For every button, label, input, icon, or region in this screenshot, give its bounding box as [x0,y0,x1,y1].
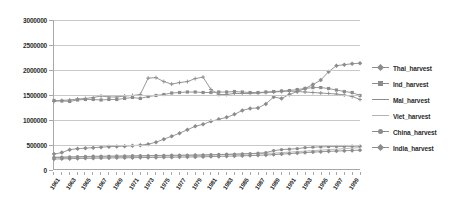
y-axis-tick [49,45,53,46]
data-point-marker [296,147,299,150]
x-axis-tick-label: 1967 [96,177,108,191]
x-axis-tick [77,172,78,175]
data-point-marker [327,87,330,90]
x-axis-tick [210,172,211,175]
data-point-marker [288,147,291,150]
x-axis-tick [250,172,251,175]
legend-swatch-icon [372,143,389,153]
series-line [54,77,360,101]
legend-label: India_harvest [393,145,434,152]
legend-item-india-harvest[interactable]: India_harvest [372,140,461,156]
legend-label: Viet_harvest [393,113,430,120]
x-axis-tick [69,172,70,175]
data-point-marker [75,146,80,150]
data-point-marker [351,91,354,94]
x-axis-tick [297,172,298,175]
y-axis-tick-label: 1000000 [23,117,47,124]
plot-area [53,20,360,170]
data-point-marker [335,88,338,91]
data-point-marker [319,86,322,89]
data-point-marker [177,131,182,135]
data-point-marker [91,145,96,149]
x-axis-tick [258,172,259,175]
x-axis-tick [336,172,337,175]
data-point-marker [280,148,283,151]
legend-label: Thai_harvest [393,65,432,72]
data-point-marker [256,106,261,110]
series-line [54,63,360,154]
y-axis-tick [49,170,53,171]
x-axis-tick [305,172,306,175]
data-point-marker [185,80,189,84]
y-axis: 0500000100000015000002000000250000030000… [0,20,49,170]
gridline [54,145,360,146]
data-point-marker [185,128,190,132]
data-point-marker [358,148,363,152]
data-point-marker [350,61,355,65]
data-point-marker [224,115,229,119]
y-axis-tick-label: 500000 [27,142,48,149]
x-axis-tick [273,172,274,175]
y-axis-tick-label: 3000000 [23,17,47,24]
x-axis-tick [203,172,204,175]
gridline [54,45,360,46]
data-point-marker [193,124,198,128]
x-axis-tick-label: 1981 [206,177,218,191]
data-point-marker [201,91,204,94]
x-axis-tick [53,172,54,175]
gridline [54,70,360,71]
x-axis-tick-label: 1977 [175,177,187,191]
x-axis-tick [116,172,117,175]
x-axis-tick-label: 1991 [285,177,297,191]
gridline [54,20,360,21]
x-axis-tick [234,172,235,175]
data-point-marker [343,90,346,93]
x-axis-tick [226,172,227,175]
x-axis-tick [132,172,133,175]
data-point-marker [186,90,189,93]
x-axis-tick-label: 1985 [238,177,250,191]
x-axis-tick [92,172,93,175]
data-point-marker [232,112,237,116]
x-axis-tick-label: 1999 [348,177,360,191]
x-axis-tick [108,172,109,175]
data-point-marker [194,90,197,93]
data-point-marker [60,150,65,154]
x-axis-tick [61,172,62,175]
x-axis-tick-label: 1989 [269,177,281,191]
x-axis-tick [155,172,156,175]
data-point-marker [279,96,284,100]
data-point-marker [358,97,362,101]
y-axis-tick-label: 1500000 [23,92,47,99]
legend-swatch-icon [372,111,389,121]
x-axis-tick [289,172,290,175]
y-axis-tick [49,120,53,121]
legend-item-china-harvest[interactable]: China_harvest [372,124,461,140]
gridline [54,120,360,121]
legend-swatch-icon [372,63,389,73]
data-point-marker [201,122,206,126]
legend-item-thai-harvest[interactable]: Thai_harvest [372,60,461,76]
x-axis-tick-label: 1997 [332,177,344,191]
data-point-marker [311,91,315,95]
legend-label: China_harvest [393,129,437,136]
x-axis-tick [100,172,101,175]
data-point-marker [139,97,142,100]
data-point-marker [303,146,306,149]
x-axis-tick [124,172,125,175]
x-axis-tick-label: 1975 [159,177,171,191]
x-axis-tick-label: 1961 [49,177,61,191]
data-point-marker [303,87,306,90]
data-point-marker [311,86,314,89]
x-axis-tick [360,172,361,175]
x-axis-tick-label: 1979 [190,177,202,191]
y-axis-tick [49,95,53,96]
data-point-marker [193,77,197,81]
legend-item-mal-harvest[interactable]: Mal_harvest [372,92,461,108]
x-axis-tick [147,172,148,175]
legend-item-ind-harvest[interactable]: Ind_harvest [372,76,461,92]
x-axis: 1961196319651967196919711973197519771979… [53,172,360,208]
legend-item-viet-harvest[interactable]: Viet_harvest [372,108,461,124]
data-point-marker [342,62,347,66]
x-axis-tick-label: 1995 [316,177,328,191]
